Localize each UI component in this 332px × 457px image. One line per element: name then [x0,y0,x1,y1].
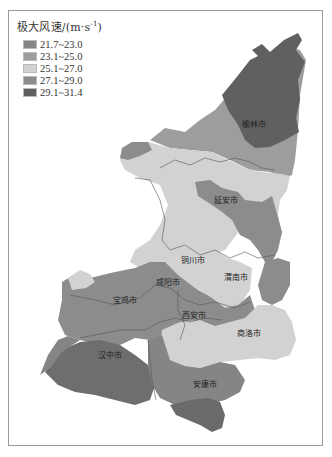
legend-title-end: ) [98,21,103,34]
legend-label: 29.1~31.4 [40,87,82,98]
legend-item: 25.1~27.0 [23,62,102,74]
legend-title-text: 极大风速/(m·s [17,21,90,34]
city-label: 渭南市 [224,272,248,282]
legend-title-sup: -1 [90,20,97,28]
legend-label: 23.1~25.0 [40,51,82,62]
region-weinan-east [258,258,290,305]
map-legend: 极大风速/(m·s-1) 21.7~23.0 23.1~25.0 25.1~27… [17,18,102,98]
city-label: 榆林市 [242,119,266,129]
legend-item: 21.7~23.0 [23,38,102,50]
legend-swatch [23,52,37,61]
legend-item: 23.1~25.0 [23,50,102,62]
legend-label: 21.7~23.0 [40,39,82,50]
legend-title: 极大风速/(m·s-1) [17,18,102,34]
legend-item: 27.1~29.0 [23,74,102,86]
legend-swatch [23,76,37,85]
city-label: 延安市 [214,195,238,205]
city-label: 宝鸡市 [113,295,137,305]
city-label: 铜川市 [181,255,205,265]
region-ankang-south [170,398,225,432]
city-label: 西安市 [182,310,206,320]
legend-label: 27.1~29.0 [40,75,82,86]
city-label: 汉中市 [98,350,122,360]
legend-swatch [23,64,37,73]
legend-swatch [23,40,37,49]
city-label: 咸阳市 [156,277,180,287]
legend-swatch [23,88,37,97]
legend-item: 29.1~31.4 [23,86,102,98]
city-label: 商洛市 [237,328,261,338]
legend-label: 25.1~27.0 [40,63,82,74]
city-label: 安康市 [193,379,217,389]
